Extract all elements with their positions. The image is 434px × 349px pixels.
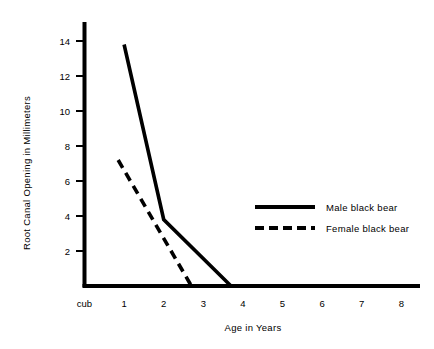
series-line-0 bbox=[124, 45, 231, 287]
x-axis-title: Age in Years bbox=[225, 322, 282, 333]
y-tick-label: 4 bbox=[65, 211, 70, 222]
chart-figure: 1412108642 cub12345678 Male black bearFe… bbox=[0, 0, 434, 349]
y-tick-label: 14 bbox=[59, 36, 70, 47]
y-tick-label: 12 bbox=[59, 71, 70, 82]
data-series-group bbox=[118, 45, 231, 287]
legend-label-1: Female black bear bbox=[326, 223, 409, 234]
y-tick-label-group: 1412108642 bbox=[59, 36, 70, 257]
y-tick-label: 10 bbox=[59, 106, 70, 117]
y-tick-label: 8 bbox=[65, 141, 70, 152]
line-chart-canvas: 1412108642 cub12345678 Male black bearFe… bbox=[0, 0, 434, 349]
x-tick-label: 1 bbox=[121, 298, 126, 309]
y-tick-label: 6 bbox=[65, 176, 70, 187]
legend-label-0: Male black bear bbox=[326, 202, 398, 213]
x-tick-label: 6 bbox=[319, 298, 324, 309]
x-tick-label: 8 bbox=[399, 298, 404, 309]
x-tick-label: 4 bbox=[240, 298, 245, 309]
chart-legend: Male black bearFemale black bear bbox=[255, 202, 409, 234]
x-tick-label: 2 bbox=[161, 298, 166, 309]
y-axis-title: Root Canal Opening in Millimeters bbox=[21, 96, 32, 250]
x-tick-label: 3 bbox=[201, 298, 206, 309]
x-tick-label: cub bbox=[77, 298, 92, 309]
y-tick-label: 2 bbox=[65, 246, 70, 257]
x-tick-label-group: cub12345678 bbox=[77, 298, 404, 309]
x-tick-label: 7 bbox=[359, 298, 364, 309]
x-tick-label: 5 bbox=[280, 298, 285, 309]
